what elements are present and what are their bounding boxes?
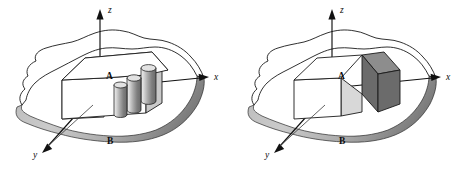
part-label-b: B	[339, 136, 346, 146]
axis-label-y: y	[264, 150, 270, 160]
segment-light-cut-face	[341, 78, 362, 116]
cylinder-3	[141, 65, 156, 105]
diagram-left-cylinders: z x y	[0, 0, 232, 175]
cylinder-3-cap	[141, 65, 156, 72]
cylinder-2	[127, 75, 141, 113]
part-label-a: A	[338, 71, 345, 81]
cylinder-1-cap	[114, 82, 127, 88]
cylinder-1	[114, 82, 127, 117]
axis-label-z: z	[339, 5, 344, 15]
block-a	[294, 52, 400, 119]
block-a-front-face	[294, 78, 341, 119]
axis-label-z: z	[107, 5, 112, 15]
axis-label-x: x	[445, 72, 451, 82]
figure-root: z x y	[0, 0, 464, 175]
cylinder-2-cap	[127, 75, 141, 81]
part-label-b: B	[107, 136, 114, 146]
axis-label-x: x	[213, 72, 219, 82]
diagram-right-solid-segment: z x y	[232, 0, 464, 175]
axis-label-y: y	[32, 150, 38, 160]
part-label-a: A	[106, 71, 113, 81]
segment-dark-side-face	[378, 70, 400, 112]
